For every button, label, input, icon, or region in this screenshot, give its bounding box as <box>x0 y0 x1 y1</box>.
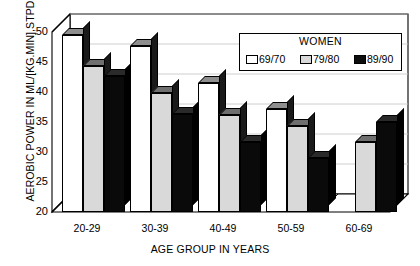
legend-item-69-70: 69/70 <box>246 53 285 65</box>
y-tick-30: 30 <box>22 145 48 157</box>
legend-item-79-80: 79/80 <box>300 53 339 65</box>
bar-front-face <box>104 76 125 212</box>
legend-swatch-black-icon <box>354 55 366 64</box>
legend-label-89-90: 89/90 <box>367 53 393 65</box>
bar-front-face <box>172 114 193 212</box>
bar-50-59-79-80 <box>287 126 308 212</box>
bar-side-face <box>397 108 404 205</box>
bar-60-69-89-90 <box>376 122 397 212</box>
bar-front-face <box>130 46 151 212</box>
legend-label-79-80: 79/80 <box>313 53 339 65</box>
legend-label-69-70: 69/70 <box>259 53 285 65</box>
bar-40-49-89-90 <box>240 142 261 212</box>
bar-30-39-89-90 <box>172 114 193 212</box>
y-tick-25: 25 <box>22 175 48 187</box>
x-tick-30-39: 30-39 <box>125 222 185 234</box>
bar-front-face <box>266 109 287 212</box>
bar-40-49-69-70 <box>198 83 219 212</box>
bar-side-face <box>329 144 336 205</box>
chart-legend: WOMEN 69/70 79/80 89/90 <box>239 33 402 71</box>
y-tick-45: 45 <box>22 55 48 67</box>
bar-front-face <box>355 142 376 212</box>
bar-front-face <box>151 93 172 212</box>
bar-20-29-89-90 <box>104 76 125 212</box>
legend-title: WOMEN <box>240 35 401 47</box>
bar-40-49-79-80 <box>219 115 240 212</box>
bar-front-face <box>62 35 83 212</box>
legend-swatch-white-icon <box>246 55 258 64</box>
bar-front-face <box>308 158 329 212</box>
x-tick-40-49: 40-49 <box>193 222 253 234</box>
x-tick-60-69: 60-69 <box>329 222 389 234</box>
legend-item-89-90: 89/90 <box>354 53 393 65</box>
x-tick-50-59: 50-59 <box>261 222 321 234</box>
bar-front-face <box>219 115 240 212</box>
bar-front-face <box>83 66 104 212</box>
x-tick-20-29: 20-29 <box>57 222 117 234</box>
bar-front-face <box>376 122 397 212</box>
bar-front-face <box>287 126 308 212</box>
y-tick-50: 50 <box>22 25 48 37</box>
bar-front-face <box>198 83 219 212</box>
bar-60-69-79-80 <box>355 142 376 212</box>
bar-30-39-79-80 <box>151 93 172 212</box>
bar-30-39-69-70 <box>130 46 151 212</box>
bar-50-59-89-90 <box>308 158 329 212</box>
bar-20-29-79-80 <box>83 66 104 212</box>
bar-20-29-69-70 <box>62 35 83 212</box>
y-tick-40: 40 <box>22 85 48 97</box>
aerobic-power-bar-chart: AEROBIC POWER IN ML/[KG.MIN],STPD AGE GR… <box>0 0 420 266</box>
plot-area: 50 45 40 35 30 25 20 <box>0 0 420 266</box>
bar-front-face <box>240 142 261 212</box>
y-tick-20: 20 <box>22 205 48 217</box>
y-tick-35: 35 <box>22 115 48 127</box>
bar-50-59-69-70 <box>266 109 287 212</box>
legend-swatch-gray-icon <box>300 55 312 64</box>
